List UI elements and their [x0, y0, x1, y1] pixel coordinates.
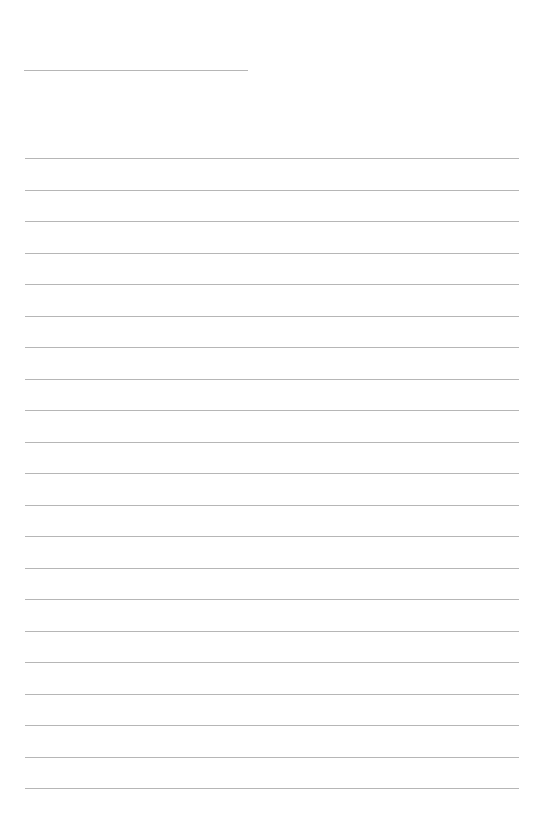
writing-line [25, 316, 519, 317]
writing-line [25, 221, 519, 222]
writing-line [25, 662, 519, 663]
writing-line [25, 158, 519, 159]
writing-line [25, 379, 519, 380]
writing-line [25, 568, 519, 569]
writing-line [25, 788, 519, 789]
writing-line [25, 473, 519, 474]
writing-line [25, 410, 519, 411]
writing-line [25, 599, 519, 600]
writing-line [25, 694, 519, 695]
title-rule [24, 70, 248, 71]
writing-line [25, 505, 519, 506]
writing-line [25, 631, 519, 632]
writing-line [25, 347, 519, 348]
writing-line [25, 284, 519, 285]
writing-line [25, 757, 519, 758]
writing-line [25, 536, 519, 537]
writing-line [25, 442, 519, 443]
writing-line [25, 725, 519, 726]
writing-line [25, 253, 519, 254]
writing-line [25, 190, 519, 191]
